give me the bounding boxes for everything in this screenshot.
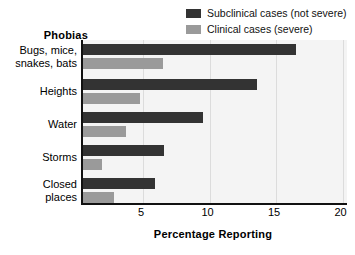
category-label-group: Bugs, mice,snakes, batsHeightsWaterStorm… xyxy=(0,40,77,203)
bar-subclinical-2 xyxy=(83,112,203,123)
x-tick-label-15: 15 xyxy=(268,206,280,218)
bar-clinical-4 xyxy=(83,192,114,203)
bar-subclinical-4 xyxy=(83,178,155,189)
category-label-line-1: Storms xyxy=(0,151,77,164)
bar-clinical-2 xyxy=(83,126,126,137)
legend-item-clinical: Clinical cases (severe) xyxy=(186,22,354,36)
bar-subclinical-0 xyxy=(83,44,296,55)
category-label-line-2: snakes, bats xyxy=(0,57,77,70)
category-label-line-2: places xyxy=(0,191,77,204)
category-label-4: Closedplaces xyxy=(0,178,77,203)
category-label-2: Water xyxy=(0,118,77,131)
plot-inner xyxy=(83,40,347,203)
x-tick-label-5: 5 xyxy=(138,206,144,218)
category-label-3: Storms xyxy=(0,151,77,164)
category-label-0: Bugs, mice,snakes, bats xyxy=(0,44,77,69)
bar-subclinical-3 xyxy=(83,145,164,156)
category-label-line-1: Bugs, mice, xyxy=(0,44,77,57)
legend-label-subclinical: Subclinical cases (not severe) xyxy=(207,8,346,19)
category-label-line-1: Water xyxy=(0,118,77,131)
bar-clinical-0 xyxy=(83,58,163,69)
x-tick-label-20: 20 xyxy=(334,206,346,218)
x-axis-title: Percentage Reporting xyxy=(81,228,345,240)
legend-swatch-clinical xyxy=(186,25,201,34)
bars-layer xyxy=(83,40,347,203)
legend-swatch-subclinical xyxy=(186,9,201,18)
category-label-1: Heights xyxy=(0,85,77,98)
chart-legend: Subclinical cases (not severe) Clinical … xyxy=(186,6,354,38)
legend-label-clinical: Clinical cases (severe) xyxy=(207,24,313,35)
category-label-line-1: Heights xyxy=(0,85,77,98)
x-tick-label-10: 10 xyxy=(201,206,213,218)
plot-area xyxy=(81,40,347,205)
bar-clinical-1 xyxy=(83,93,140,104)
category-label-line-1: Closed xyxy=(0,178,77,191)
bar-subclinical-1 xyxy=(83,79,257,90)
phobias-bar-chart: Subclinical cases (not severe) Clinical … xyxy=(0,0,355,255)
legend-item-subclinical: Subclinical cases (not severe) xyxy=(186,6,354,20)
bar-clinical-3 xyxy=(83,159,102,170)
x-axis-tick-group: 5101520 xyxy=(0,206,355,222)
